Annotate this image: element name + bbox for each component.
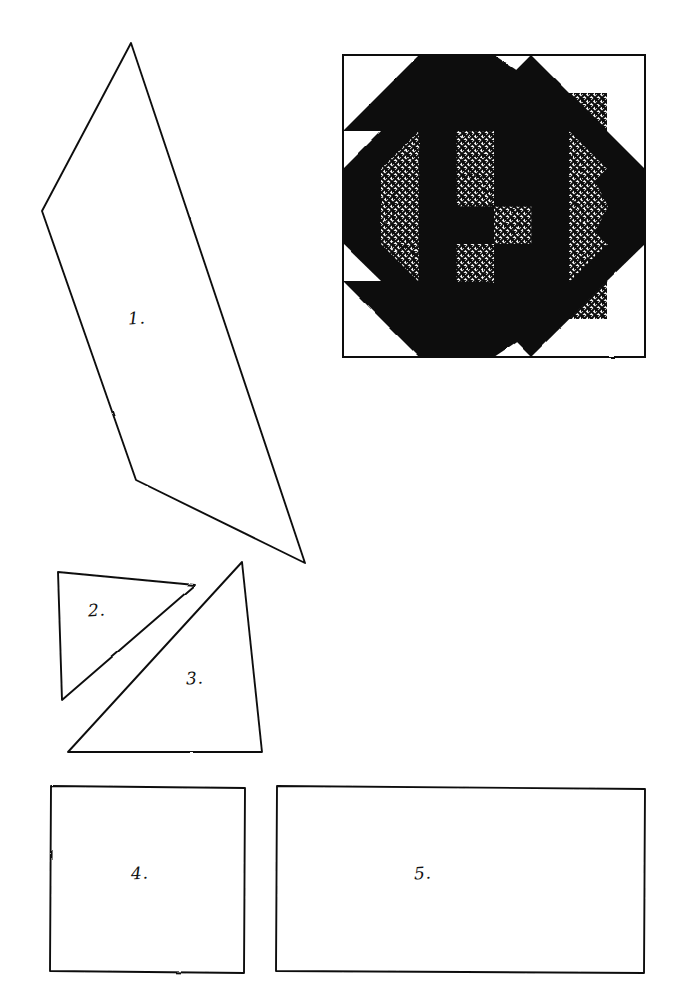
pattern-piece-4-label: 4.	[130, 863, 148, 884]
pattern-piece-1-label: 1.	[127, 308, 145, 329]
pattern-piece-3-outline	[68, 562, 262, 752]
pattern-piece-3-label: 3.	[185, 668, 203, 689]
pattern-piece-2-label: 2.	[87, 600, 105, 621]
pattern-piece-5-outline	[276, 786, 645, 973]
pattern-piece-5-label: 5.	[413, 863, 431, 884]
pattern-piece-1-outline	[42, 43, 305, 563]
quilt-block-diagram	[0, 0, 687, 1008]
pattern-sheet-page: 1. 2. 3. 4. 5.	[0, 0, 687, 1008]
